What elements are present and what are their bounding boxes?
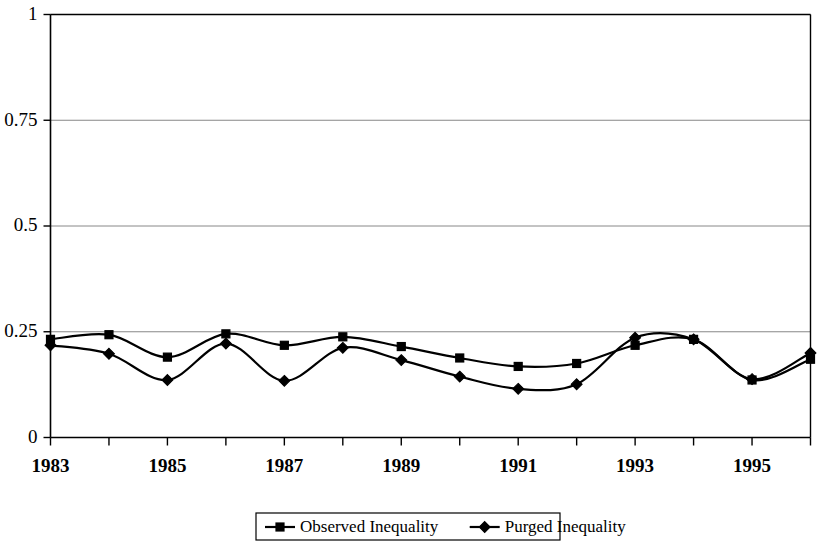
legend-marker-diamond [479,522,490,533]
x-axis-label-1983: 1983 [32,455,70,476]
legend-item-purged-inequality[interactable]: Purged Inequality [470,517,627,536]
data-point-square-1991 [514,362,522,370]
y-axis-label-1: 1 [28,3,38,24]
x-axis-label-1985: 1985 [148,455,186,476]
y-axis-labels: 00.250.50.751 [4,3,37,447]
y-axis-label-0.75: 0.75 [4,109,37,130]
data-point-square-1989 [397,343,405,351]
legend-item-observed-inequality[interactable]: Observed Inequality [265,517,439,536]
data-point-diamond-1984 [104,348,115,359]
x-axis-label-1995: 1995 [733,455,771,476]
y-axis-label-0: 0 [28,426,38,447]
data-point-square-1985 [163,353,171,361]
data-point-diamond-1987 [279,375,290,386]
chart-legend: Observed InequalityPurged Inequality [256,513,626,540]
x-axis-label-1989: 1989 [382,455,420,476]
y-axis-label-0.5: 0.5 [14,214,38,235]
data-point-diamond-1988 [337,342,348,353]
data-point-diamond-1990 [454,371,465,382]
data-point-square-1990 [456,354,464,362]
chart-canvas: 00.250.50.751 19831985198719891991199319… [0,0,817,543]
x-axis-label-1987: 1987 [265,455,304,476]
data-point-diamond-1985 [162,375,173,386]
data-point-square-1986 [222,330,230,338]
data-series-layer [45,330,816,394]
x-axis-label-1991: 1991 [499,455,537,476]
x-axis-labels: 1983198519871989199119931995 [32,455,772,476]
data-point-square-1988 [339,333,347,341]
grid-lines [51,15,811,332]
data-point-square-1987 [280,341,288,349]
inequality-line-chart: 00.250.50.751 19831985198719891991199319… [0,0,817,543]
legend-label-2: Purged Inequality [505,517,627,536]
data-point-diamond-1989 [396,355,407,366]
series-observed-inequality [47,330,815,384]
legend-marker-square [276,523,284,531]
x-axis-ticks [51,438,811,446]
x-axis-label-1993: 1993 [616,455,654,476]
data-point-diamond-1986 [220,338,231,349]
data-point-diamond-1992 [571,379,582,390]
data-point-square-1984 [105,331,113,339]
legend-label-1: Observed Inequality [300,517,439,536]
y-axis-label-0.25: 0.25 [4,320,37,341]
data-point-square-1992 [573,359,581,367]
series-purged-inequality [45,332,816,394]
y-axis-ticks [44,15,51,438]
data-point-diamond-1991 [513,383,524,394]
